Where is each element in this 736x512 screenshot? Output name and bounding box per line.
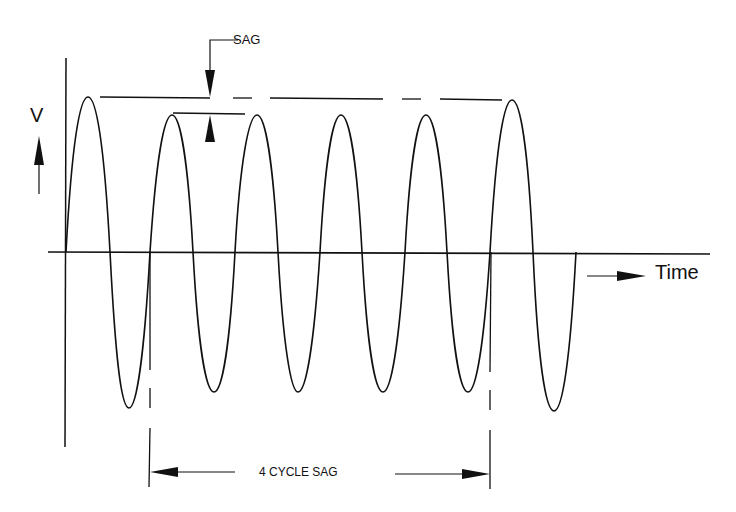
nominal-peak-dash — [270, 98, 383, 99]
v-up-arrow-icon — [34, 136, 44, 165]
y-axis-label: V — [30, 104, 43, 127]
duration-label: 4 CYCLE SAG — [259, 465, 338, 479]
sag-label: SAG — [233, 32, 260, 47]
nominal-peak-line — [100, 97, 210, 98]
sag-diagram — [0, 0, 736, 512]
sag-down-arrow-icon — [205, 70, 215, 97]
sag-peak-line — [173, 113, 245, 114]
duration-left-arrow-icon — [150, 467, 178, 477]
sag-start-boundary — [149, 428, 150, 487]
duration-right-arrow-icon — [462, 469, 490, 479]
nominal-peak-dash — [440, 99, 502, 100]
sag-end-boundary — [490, 252, 491, 372]
x-axis-label: Time — [655, 261, 699, 284]
time-right-arrow-icon — [617, 271, 646, 281]
x-axis — [48, 252, 710, 254]
sag-up-arrow-icon — [205, 115, 215, 142]
